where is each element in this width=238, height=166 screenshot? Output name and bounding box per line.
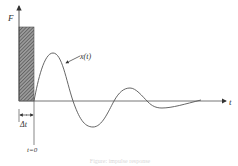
figure-caption: Figure: impulse response <box>90 158 151 164</box>
x-axis-label: t <box>229 97 232 107</box>
y-axis-label: F <box>7 13 14 23</box>
response-curve <box>34 53 201 127</box>
impulse-response-diagram: F t x(t) Δt t=0 Figure: impulse response <box>0 0 238 166</box>
t-zero-label: t=0 <box>27 146 38 154</box>
response-label: x(t) <box>79 52 91 61</box>
response-leader-arrow <box>66 56 80 63</box>
impulse-block <box>19 27 34 101</box>
dt-label: Δt <box>19 120 28 129</box>
